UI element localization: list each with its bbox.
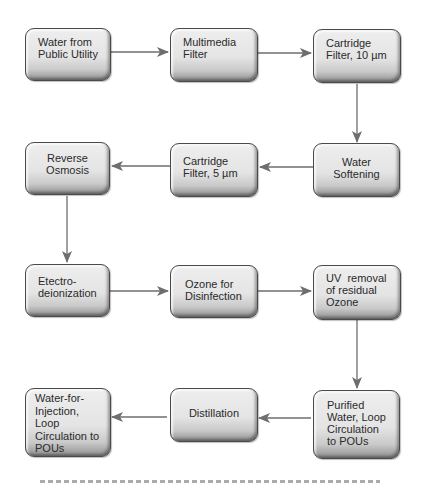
node-cartridge-filter-5um: Cartridge Filter, 5 µm (170, 143, 258, 197)
node-label: Distillation (175, 407, 253, 419)
node-label: Water (318, 156, 395, 168)
node-water-from-public-utility: Water from Public Utility (25, 28, 111, 81)
node-label: Circulation (327, 423, 393, 435)
node-label: to POUs (327, 435, 393, 447)
node-water-for-injection: Water-for- Injection, Loop Circulation t… (25, 388, 111, 457)
node-label: Osmosis (30, 164, 105, 176)
node-label: Filter (183, 48, 251, 60)
node-electrodeionization: Etectro- deionization (25, 264, 110, 317)
node-reverse-osmosis: Reverse Osmosis (25, 142, 110, 195)
node-label: Injection, (35, 405, 104, 418)
node-label: Cartridge (183, 155, 251, 167)
node-label: Ozone (326, 296, 394, 308)
node-label: Reverse (30, 152, 105, 164)
node-label: UV removal (326, 272, 394, 284)
water-purification-flowchart: Water from Public Utility Multimedia Fil… (0, 0, 423, 483)
node-uv-removal-residual-ozone: UV removal of residual Ozone (313, 265, 401, 320)
node-ozone-for-disinfection: Ozone for Disinfection (170, 265, 258, 318)
node-label: Circulation to (35, 430, 104, 443)
node-purified-water-loop: Purified Water, Loop Circulation to POUs (313, 390, 400, 459)
node-multimedia-filter: Multimedia Filter (170, 28, 258, 82)
node-label: Loop (35, 417, 104, 430)
figure-caption-cropped (40, 477, 380, 483)
node-label: Cartridge (326, 37, 394, 49)
node-label: Filter, 5 µm (183, 167, 251, 179)
node-label: Filter, 10 µm (326, 49, 394, 61)
node-label: Water-for- (35, 392, 104, 405)
node-water-softening: Water Softening (313, 143, 400, 197)
node-label: Ozone for (185, 278, 251, 290)
node-label: Disinfection (185, 290, 251, 302)
node-label: Etectro- (38, 275, 103, 287)
node-label: deionization (38, 287, 103, 299)
node-label: Water from (38, 36, 104, 48)
node-label: Multimedia (183, 36, 251, 48)
node-label: POUs (35, 442, 104, 455)
node-label: of residual (326, 284, 394, 296)
node-distillation: Distillation (170, 388, 258, 442)
node-label: Softening (318, 168, 395, 180)
node-label: Water, Loop (327, 411, 393, 423)
node-label: Purified (327, 399, 393, 411)
node-label: Public Utility (38, 48, 104, 60)
node-cartridge-filter-10um: Cartridge Filter, 10 µm (313, 29, 401, 83)
